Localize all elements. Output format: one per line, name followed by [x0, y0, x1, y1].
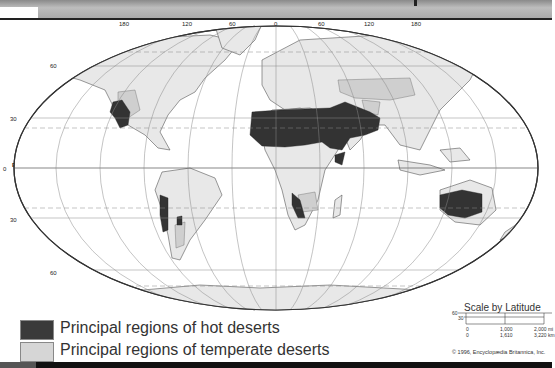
scale-km-1610: 1,610: [500, 332, 513, 338]
world-desert-map: [0, 20, 552, 320]
temperate-desert-swatch: [20, 342, 54, 362]
hot-desert-swatch: [20, 320, 54, 340]
copyright-notice: © 1996, Encyclopædia Britannica, Inc.: [452, 349, 545, 355]
scale-km-0: 0: [466, 332, 469, 338]
bottom-frame-notch: [0, 362, 36, 368]
bottom-frame-bar: [0, 362, 552, 368]
top-frame-bar: [0, 0, 552, 19]
legend-label-hot: Principal regions of hot deserts: [60, 319, 280, 337]
top-frame-mark: [414, 0, 417, 6]
scale-km-3220: 3,220 km: [534, 332, 555, 338]
scale-by-latitude: Scale by Latitude 60 30 0 1,000 2,000 mi…: [452, 302, 552, 342]
legend-label-temperate: Principal regions of temperate deserts: [60, 341, 329, 359]
